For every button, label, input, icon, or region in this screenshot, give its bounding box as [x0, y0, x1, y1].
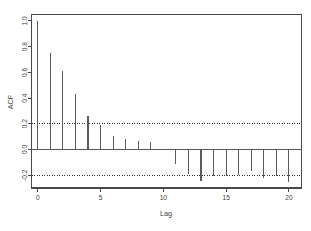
- y-tick-label: 0.0: [22, 145, 29, 154]
- y-tick-label: 0.2: [22, 119, 29, 128]
- y-tick-label: 0.4: [22, 93, 29, 102]
- x-tick-label: 20: [285, 194, 293, 201]
- acf-plot-canvas: -0.20.00.20.40.60.81.0 05101520 ACF Lag: [0, 0, 311, 231]
- y-tick-label: -0.2: [22, 169, 29, 181]
- y-tick-label: 0.6: [22, 67, 29, 76]
- x-tick-label: 0: [36, 194, 40, 201]
- y-tick-label: 1.0: [22, 16, 29, 25]
- y-axis-title: ACF: [6, 94, 15, 109]
- x-tick-label: 10: [160, 194, 168, 201]
- x-tick-label: 5: [99, 194, 103, 201]
- y-tick-label: 0.8: [22, 42, 29, 51]
- plot-background: [0, 0, 311, 231]
- x-tick-label: 15: [222, 194, 230, 201]
- acf-plot-screenshot: -0.20.00.20.40.60.81.0 05101520 ACF Lag: [0, 0, 311, 231]
- x-axis-title: Lag: [160, 209, 172, 218]
